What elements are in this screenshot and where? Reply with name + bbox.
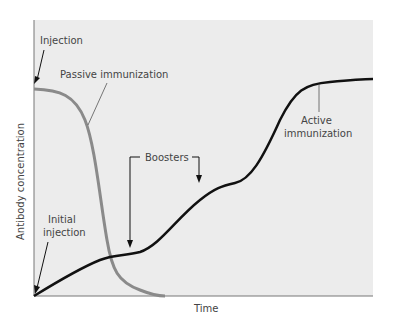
plot-area [34, 20, 373, 296]
active-label-2: immunization [284, 128, 352, 139]
boosters-label: Boosters [145, 152, 189, 163]
initial-label-1: Initial [48, 214, 76, 225]
passive-label: Passive immunization [60, 69, 168, 80]
antibody-chart: Injection Passive immunization Initial i… [0, 0, 393, 324]
y-axis-label: Antibody concentration [15, 123, 26, 240]
active-label-1: Active [301, 115, 332, 126]
injection-label: Injection [40, 35, 83, 46]
initial-label-2: injection [43, 227, 86, 238]
x-axis-label: Time [193, 303, 218, 314]
